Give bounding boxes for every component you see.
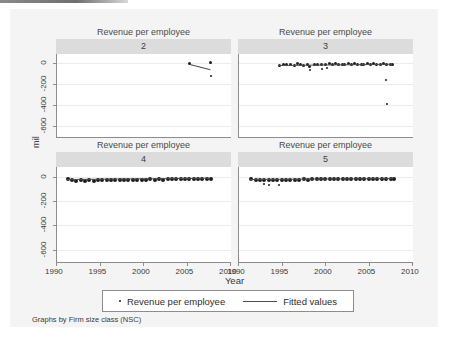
data-point	[210, 75, 212, 77]
gridline	[57, 63, 231, 64]
y-tick-label: -400	[39, 214, 48, 236]
y-tick-label: -200	[39, 190, 48, 212]
gridline	[239, 105, 413, 106]
data-point	[309, 69, 311, 71]
y-tick-label: 0	[39, 51, 48, 73]
scan-artifact-strip	[0, 0, 128, 3]
y-tick-mark	[53, 225, 56, 226]
legend-marker-label: Revenue per employee	[127, 296, 225, 307]
panel-label: 3	[238, 39, 413, 54]
y-tick-mark	[53, 177, 56, 178]
y-tick-mark	[53, 63, 56, 64]
panel-title: Revenue per employee	[56, 140, 231, 150]
panel-label: 2	[56, 39, 231, 54]
panel-strip: 3	[238, 39, 413, 54]
legend-item-marker[interactable]: Revenue per employee	[119, 296, 225, 307]
scatter-marker-icon	[119, 300, 121, 302]
panel-5: Revenue per employee 5	[238, 140, 413, 263]
panel-2: Revenue per employee 2	[56, 27, 231, 138]
y-tick-label: -600	[39, 238, 48, 260]
x-tick-mark	[282, 263, 283, 266]
figure-note: Graphs by Firm size class (NSC)	[32, 315, 141, 324]
x-tick-mark	[143, 263, 144, 266]
x-axis-title: Year	[56, 275, 413, 286]
x-tick-mark	[412, 263, 413, 266]
gridline	[239, 201, 413, 202]
legend-item-line[interactable]: Fitted values	[243, 296, 337, 307]
x-tick-mark	[56, 263, 57, 266]
data-point	[386, 103, 388, 105]
gridline	[57, 105, 231, 106]
y-tick-mark	[53, 250, 56, 251]
gridline	[57, 126, 231, 127]
y-tick-label: -400	[39, 94, 48, 116]
plot-area	[238, 54, 413, 138]
y-tick-label: 0	[39, 165, 48, 187]
gridline	[239, 126, 413, 127]
panel-label: 4	[56, 152, 231, 167]
x-tick-mark	[100, 263, 101, 266]
gridline	[57, 201, 231, 202]
data-point	[326, 67, 328, 69]
fitted-line-icon	[243, 301, 277, 302]
y-tick-mark	[53, 126, 56, 127]
x-tick-mark	[238, 263, 239, 266]
panel-label: 5	[238, 152, 413, 167]
y-tick-mark	[53, 105, 56, 106]
data-point	[385, 79, 387, 81]
y-tick-mark	[53, 201, 56, 202]
gridline	[239, 250, 413, 251]
plot-area	[56, 167, 231, 263]
panel-3: Revenue per employee 3	[238, 27, 413, 138]
figure-page: mil Revenue per employee 2 Revenue per e…	[10, 9, 438, 327]
chart-figure: mil Revenue per employee 2 Revenue per e…	[10, 9, 438, 327]
y-tick-label: -200	[39, 72, 48, 94]
panel-title: Revenue per employee	[238, 27, 413, 37]
gridline	[239, 84, 413, 85]
legend-line-label: Fitted values	[283, 296, 337, 307]
panel-strip: 2	[56, 39, 231, 54]
chart-legend: Revenue per employee Fitted values	[102, 290, 354, 312]
plot-area	[238, 167, 413, 263]
gridline	[57, 250, 231, 251]
data-point	[278, 184, 280, 186]
y-tick-mark	[53, 84, 56, 85]
panel-strip: 4	[56, 152, 231, 167]
data-point	[209, 177, 213, 181]
x-tick-mark	[369, 263, 370, 266]
fitted-line	[190, 64, 210, 70]
plot-area	[56, 54, 231, 138]
x-tick-mark	[230, 263, 231, 266]
x-tick-mark	[325, 263, 326, 266]
y-tick-label: -600	[39, 115, 48, 137]
panel-4: Revenue per employee 4	[56, 140, 231, 263]
data-point	[263, 183, 265, 185]
panel-strip: 5	[238, 152, 413, 167]
data-point	[209, 61, 212, 64]
data-point	[321, 68, 323, 70]
panel-title: Revenue per employee	[56, 27, 231, 37]
gridline	[57, 84, 231, 85]
data-point	[268, 184, 270, 186]
panel-title: Revenue per employee	[238, 140, 413, 150]
x-tick-mark	[187, 263, 188, 266]
gridline	[239, 225, 413, 226]
gridline	[57, 225, 231, 226]
